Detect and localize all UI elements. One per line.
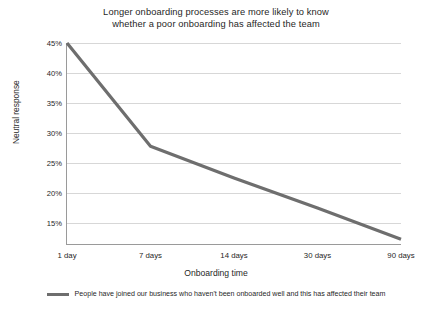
legend-item: People have joined our business who have…	[47, 290, 386, 298]
x-axis-tick-label: 90 days	[387, 251, 414, 260]
y-axis-title: Neutral response	[11, 80, 21, 144]
x-axis-tick-label: 1 day	[57, 251, 76, 260]
x-axis-tick-label: 7 days	[139, 251, 162, 260]
x-axis-title: Onboarding time	[0, 268, 432, 278]
chart-legend: People have joined our business who have…	[0, 290, 432, 298]
y-axis-tick-label: 25%	[47, 159, 62, 168]
legend-item-label: People have joined our business who have…	[75, 290, 386, 298]
y-axis-tick-label: 45%	[47, 39, 62, 48]
series-polyline	[67, 43, 401, 239]
plot-area: 45%40%35%30%25%20%15% 1 day7 days14 days…	[66, 43, 401, 245]
x-axis-tick-label: 30 days	[304, 251, 331, 260]
series-line	[67, 43, 401, 244]
y-axis-tick-label: 40%	[47, 69, 62, 78]
chart-title-line-1: Longer onboarding processes are more lik…	[0, 6, 432, 18]
chart-title: Longer onboarding processes are more lik…	[0, 6, 432, 31]
chart-title-line-2: whether a poor onboarding has affected t…	[0, 18, 432, 30]
x-axis-tick-label: 14 days	[220, 251, 247, 260]
y-axis-tick-label: 20%	[47, 189, 62, 198]
line-chart-figure: Longer onboarding processes are more lik…	[0, 0, 432, 315]
legend-line-swatch	[47, 293, 69, 296]
y-axis-tick-label: 30%	[47, 129, 62, 138]
y-axis-tick-label: 15%	[47, 219, 62, 228]
y-axis-tick-label: 35%	[47, 99, 62, 108]
